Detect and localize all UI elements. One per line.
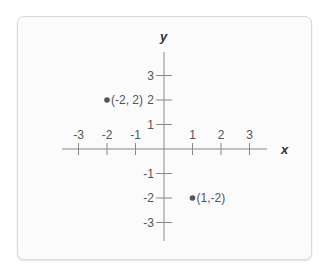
data-point-label: (-2, 2): [111, 93, 143, 107]
y-axis-label: y: [159, 29, 168, 44]
y-tick-label: -2: [143, 191, 154, 205]
data-point-marker: [190, 195, 196, 201]
x-tick-label: 1: [189, 128, 196, 142]
x-tick-label: 3: [246, 128, 253, 142]
data-point-label: (1,-2): [197, 191, 226, 205]
y-tick-label: 3: [147, 69, 154, 83]
x-tick-label: -1: [130, 128, 141, 142]
data-point-marker: [104, 97, 110, 103]
axes: [62, 52, 267, 241]
x-tick-label: -2: [102, 128, 113, 142]
y-tick-label: -3: [143, 216, 154, 230]
x-tick-label: -3: [73, 128, 84, 142]
y-tick-label: 2: [147, 93, 154, 107]
x-axis-label: x: [280, 142, 289, 157]
x-tick-label: 2: [218, 128, 225, 142]
coordinate-plane: -3-2-1123321-1-2-3 (-2, 2)(1,-2) x y: [0, 0, 327, 275]
y-tick-label: -1: [143, 167, 154, 181]
y-tick-label: 1: [147, 118, 154, 132]
